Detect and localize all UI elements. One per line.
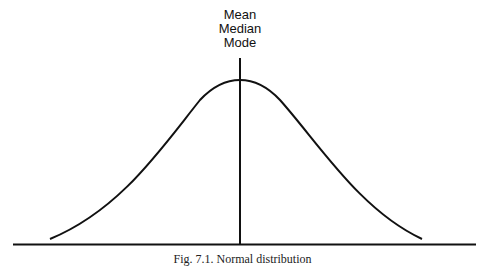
figure-caption: Fig. 7.1. Normal distribution: [0, 252, 485, 267]
bell-curve: [50, 80, 422, 239]
